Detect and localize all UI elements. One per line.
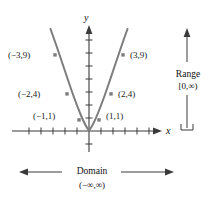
point-label-neg3-9: (−3,9)	[8, 51, 30, 60]
point-label-neg2-4: (−2,4)	[18, 90, 40, 99]
point-marker-2-4	[109, 92, 112, 95]
point-marker-neg3-9	[53, 53, 56, 56]
function-graph-figure: y x (−3,9) (−2,4) (−1,1) (1,1) (2,4) (3,…	[0, 0, 210, 200]
point-label-3-9: (3,9)	[130, 51, 147, 60]
y-axis	[86, 25, 93, 152]
point-marker-neg2-4	[65, 92, 68, 95]
domain-interval: (−∞,∞)	[66, 181, 118, 190]
point-marker-3-9	[121, 53, 124, 56]
range-interval: [0,∞)	[172, 82, 204, 91]
domain-title: Domain	[66, 167, 118, 177]
point-label-neg1-1: (−1,1)	[33, 112, 55, 121]
point-label-1-1: (1,1)	[106, 112, 123, 121]
point-marker-1-1	[97, 118, 100, 121]
y-axis-label: y	[84, 13, 88, 23]
point-label-2-4: (2,4)	[118, 90, 135, 99]
x-axis-label: x	[166, 126, 170, 136]
range-title: Range	[172, 70, 204, 80]
point-marker-neg1-1	[77, 118, 80, 121]
